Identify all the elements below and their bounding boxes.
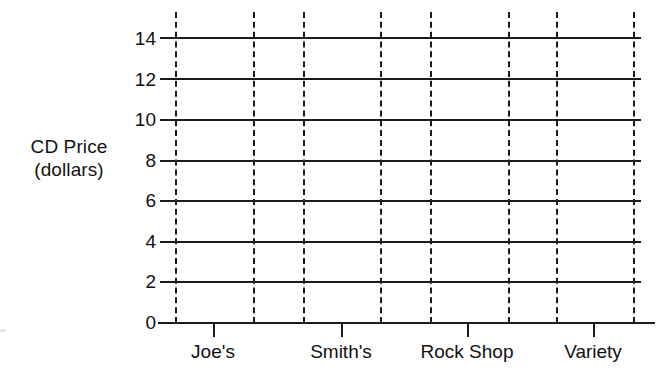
y-tick-label-2: 2 <box>118 272 156 291</box>
gridline-8 <box>166 160 641 162</box>
dashed-divider-3 <box>303 12 305 323</box>
y-tick-label-6: 6 <box>118 191 156 210</box>
y-tick-label-10: 10 <box>118 110 156 129</box>
gridline-12 <box>166 78 641 80</box>
y-tick-label-12: 12 <box>118 70 156 89</box>
y-tick-mark-4 <box>160 241 172 243</box>
x-tick-mark-rock-shop <box>467 324 469 337</box>
cd-price-chart: CD Price (dollars) <box>0 0 665 374</box>
y-tick-label-0: 0 <box>118 313 156 332</box>
y-tick-mark-12 <box>160 78 172 80</box>
x-tick-label-variety: Variety <box>564 341 622 363</box>
gridline-14 <box>166 37 641 39</box>
x-tick-mark-variety <box>593 324 595 337</box>
x-tick-label-joes: Joe's <box>191 341 235 363</box>
dashed-divider-6 <box>508 12 510 323</box>
dashed-divider-2 <box>253 12 255 323</box>
y-tick-mark-8 <box>160 160 172 162</box>
x-axis-line <box>158 322 655 324</box>
y-tick-mark-2 <box>160 281 172 283</box>
x-tick-label-smiths: Smith's <box>310 341 372 363</box>
scan-artifact <box>0 329 6 332</box>
gridline-4 <box>166 241 641 243</box>
dashed-divider-5 <box>430 12 432 323</box>
y-tick-mark-6 <box>160 200 172 202</box>
gridline-6 <box>166 200 641 202</box>
y-tick-label-14: 14 <box>118 29 156 48</box>
dashed-divider-1 <box>175 12 177 323</box>
y-tick-mark-10 <box>160 119 172 121</box>
gridline-2 <box>166 281 641 283</box>
x-tick-label-rock-shop: Rock Shop <box>421 341 514 363</box>
y-tick-label-8: 8 <box>118 151 156 170</box>
x-tick-mark-joes <box>213 324 215 337</box>
dashed-divider-8 <box>633 12 635 323</box>
dashed-divider-7 <box>556 12 558 323</box>
y-tick-label-4: 4 <box>118 232 156 251</box>
y-tick-mark-14 <box>160 37 172 39</box>
plot-area <box>0 0 665 374</box>
dashed-divider-4 <box>380 12 382 323</box>
x-tick-mark-smiths <box>341 324 343 337</box>
gridline-10 <box>166 119 641 121</box>
